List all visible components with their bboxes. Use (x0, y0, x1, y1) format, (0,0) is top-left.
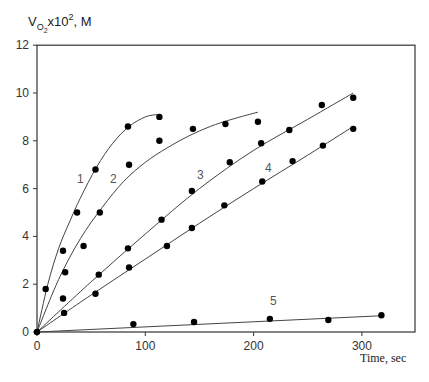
data-point-series-4 (189, 225, 195, 231)
data-point-series-4 (92, 291, 98, 297)
x-axis-title: Time, sec (360, 351, 406, 365)
data-point-series-4 (61, 310, 67, 316)
data-point-series-4 (126, 264, 132, 270)
data-point-series-5 (378, 312, 384, 318)
data-point-series-3 (158, 216, 164, 222)
origin-point (34, 329, 40, 335)
data-point-series-5 (130, 321, 136, 327)
data-point-series-3 (189, 188, 195, 194)
data-point-series-2 (126, 162, 132, 168)
data-point-series-2 (222, 121, 228, 127)
x-tick-label: 100 (135, 339, 155, 353)
data-point-series-1 (92, 166, 98, 172)
data-point-series-2 (156, 138, 162, 144)
plot-frame (37, 45, 415, 332)
data-point-series-4 (259, 178, 265, 184)
y-tick-label: 6 (22, 182, 29, 196)
data-point-series-1 (42, 286, 48, 292)
data-point-series-4 (350, 126, 356, 132)
data-point-series-5 (325, 317, 331, 323)
data-points (34, 95, 385, 336)
y-tick-label: 12 (16, 38, 30, 52)
data-point-series-1 (156, 114, 162, 120)
data-point-series-3 (350, 95, 356, 101)
curve-label-1: 1 (77, 172, 84, 186)
curve-label-2: 2 (110, 172, 117, 186)
data-point-series-3 (125, 245, 131, 251)
data-point-series-2 (190, 126, 196, 132)
data-point-series-1 (60, 248, 66, 254)
y-tick-label: 4 (22, 229, 29, 243)
data-point-series-1 (125, 123, 131, 129)
x-tick-label: 200 (244, 339, 264, 353)
data-point-series-5 (191, 319, 197, 325)
fit-curves (37, 93, 381, 332)
x-tick-label: 0 (34, 339, 41, 353)
data-point-series-2 (80, 243, 86, 249)
data-point-series-1 (74, 209, 80, 215)
y-tick-label: 10 (16, 86, 30, 100)
data-point-series-4 (164, 243, 170, 249)
fit-curve-2 (37, 112, 258, 332)
data-point-series-3 (258, 140, 264, 146)
data-point-series-3 (286, 127, 292, 133)
y-tick-label: 2 (22, 277, 29, 291)
curve-label-5: 5 (270, 294, 277, 308)
data-point-series-2 (97, 209, 103, 215)
data-point-series-5 (267, 316, 273, 322)
data-point-series-2 (62, 269, 68, 275)
y-tick-label: 0 (22, 325, 29, 339)
curve-label-4: 4 (265, 161, 272, 175)
data-point-series-4 (221, 202, 227, 208)
fit-curve-4 (37, 126, 353, 332)
y-axis-title: VO2x102, M (28, 12, 92, 34)
data-point-series-3 (227, 159, 233, 165)
data-point-series-3 (60, 295, 66, 301)
chart: 0246810120100200300 12345 VO2x102, M Tim… (0, 0, 429, 382)
data-point-series-4 (320, 142, 326, 148)
data-point-series-3 (96, 271, 102, 277)
curve-labels: 12345 (77, 161, 277, 308)
data-point-series-2 (255, 118, 261, 124)
curve-label-3: 3 (197, 168, 204, 182)
y-tick-label: 8 (22, 134, 29, 148)
data-point-series-4 (289, 158, 295, 164)
data-point-series-3 (319, 102, 325, 108)
fit-curve-1 (37, 115, 157, 332)
